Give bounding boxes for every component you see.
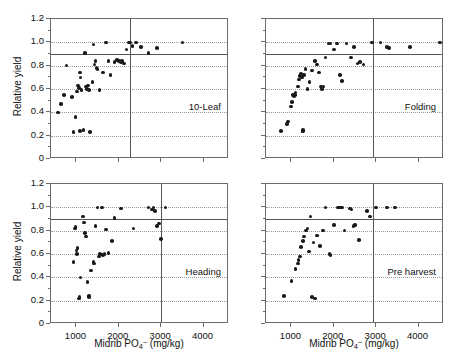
data-point (294, 267, 298, 271)
data-point (134, 41, 138, 45)
data-point (338, 73, 342, 77)
y-tick-1.2 (46, 18, 50, 19)
data-point (110, 239, 114, 243)
data-point (181, 41, 185, 45)
x-tick-label-3000: 3000 (140, 330, 180, 341)
data-point (374, 206, 378, 210)
gridline-y-0.4 (51, 277, 227, 278)
gridline-y-0.4 (266, 277, 442, 278)
x-tick-2000 (333, 158, 334, 162)
y-minor-tick-0.9 (48, 218, 51, 219)
yield-threshold-line (51, 54, 227, 55)
data-point (385, 206, 389, 210)
data-point (322, 85, 326, 89)
y-minor-tick-0.3 (263, 288, 266, 289)
y-tick-label-0.2: 0.2 (14, 129, 44, 140)
data-point (296, 262, 300, 266)
data-point (131, 44, 135, 48)
y-tick-0.2 (46, 300, 50, 301)
data-point (147, 51, 151, 55)
gridline-y-0.8 (266, 231, 442, 232)
y-tick-0.4 (46, 111, 50, 112)
data-point (408, 45, 412, 49)
data-point (296, 85, 300, 89)
y-minor-tick-0.5 (48, 265, 51, 266)
data-point (301, 239, 305, 243)
panel-label: Pre harvest (387, 266, 436, 277)
y-tick-0.6 (261, 88, 265, 89)
y-minor-tick-0.3 (48, 288, 51, 289)
data-point (365, 209, 369, 213)
y-minor-tick-0.1 (263, 146, 266, 147)
data-point (294, 91, 298, 95)
y-tick-label-1.2: 1.2 (14, 177, 44, 188)
data-point (107, 251, 111, 255)
y-minor-tick-1.1 (263, 30, 266, 31)
data-point (279, 129, 283, 133)
y-minor-tick-0.1 (48, 311, 51, 312)
data-point (94, 59, 98, 63)
y-tick-0 (261, 158, 265, 159)
data-point (87, 88, 91, 92)
data-point (350, 208, 354, 212)
y-tick-0.6 (46, 253, 50, 254)
x-tick-2000 (333, 323, 334, 327)
x-tick-label-1000: 1000 (55, 330, 95, 341)
x-tick-1000 (290, 158, 291, 162)
data-point (282, 294, 286, 298)
data-point (125, 48, 129, 52)
data-point (82, 128, 86, 132)
y-tick-1.2 (261, 18, 265, 19)
data-point (103, 252, 107, 256)
data-point (104, 41, 108, 45)
data-point (132, 227, 136, 231)
data-point (86, 280, 90, 284)
data-point (306, 227, 310, 231)
y-tick-label-1.2: 1.2 (14, 12, 44, 23)
y-tick-0.2 (261, 135, 265, 136)
y-minor-tick-0.7 (48, 241, 51, 242)
y-tick-0.8 (261, 65, 265, 66)
y-minor-tick-1.1 (48, 30, 51, 31)
data-point (329, 253, 333, 257)
data-point (370, 41, 374, 45)
x-tick-label-3000: 3000 (355, 330, 395, 341)
data-point (72, 260, 76, 264)
data-point (357, 238, 361, 242)
critical-concentration-line (161, 184, 162, 322)
data-point (109, 73, 113, 77)
data-point (74, 115, 78, 119)
y-tick-1 (46, 206, 50, 207)
data-point (155, 46, 159, 50)
y-minor-tick-0.7 (263, 76, 266, 77)
plot-frame: Pre harvest (265, 183, 443, 323)
gridline-y-0.8 (51, 66, 227, 67)
critical-concentration-line (130, 19, 131, 157)
plot-frame: 10-Leaf (50, 18, 228, 158)
data-point (89, 269, 93, 273)
data-point (324, 56, 328, 60)
y-tick-1 (261, 41, 265, 42)
data-point (289, 105, 293, 109)
panel-pre-harvest: Pre harvest (265, 183, 443, 323)
data-point (65, 64, 69, 68)
plot-frame: Folding (265, 18, 443, 158)
x-tick-label-4000: 4000 (398, 330, 438, 341)
data-point (438, 41, 442, 45)
data-point (75, 252, 79, 256)
data-point (74, 225, 78, 229)
x-tick-3000 (160, 158, 161, 162)
y-tick-0 (261, 323, 265, 324)
data-point (335, 42, 339, 46)
y-tick-1 (261, 206, 265, 207)
y-tick-label-0.4: 0.4 (14, 105, 44, 116)
data-point (100, 206, 104, 210)
x-tick-1000 (75, 158, 76, 162)
data-point (56, 111, 60, 115)
critical-concentration-line (373, 184, 374, 322)
y-tick-label-1: 1.0 (14, 200, 44, 211)
data-point (308, 80, 312, 84)
data-point (298, 255, 302, 259)
data-point (159, 237, 163, 241)
y-tick-1.2 (261, 183, 265, 184)
